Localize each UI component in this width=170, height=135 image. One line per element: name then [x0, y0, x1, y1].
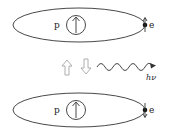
top-proton-label: p — [54, 20, 60, 30]
photon-wave-icon — [97, 63, 156, 71]
bottom-atom: p e — [13, 93, 154, 127]
hollow-up-arrow-icon — [62, 60, 72, 75]
top-orbit — [13, 8, 145, 42]
top-proton-spin-up-icon — [73, 17, 80, 33]
photon-label: hν — [146, 73, 156, 82]
bottom-proton-spin-up-icon — [73, 102, 80, 118]
top-electron-label: e — [149, 20, 154, 30]
top-atom: p e — [13, 8, 154, 42]
bottom-electron-label: e — [149, 105, 154, 115]
hyperfine-diagram: p e hν p e — [0, 0, 170, 135]
bottom-proton-label: p — [54, 105, 60, 115]
bottom-orbit — [13, 93, 145, 127]
hollow-down-arrow-icon — [81, 59, 91, 74]
